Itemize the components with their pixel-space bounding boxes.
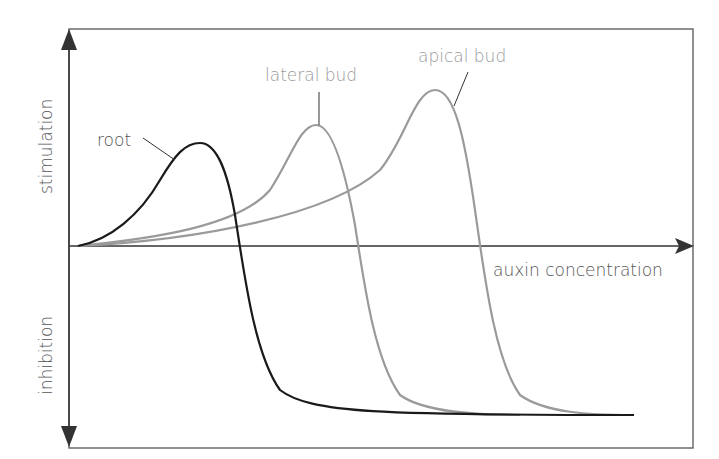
root-label: root bbox=[97, 130, 131, 150]
auxin-diagram: root lateral bud apical bud auxin concen… bbox=[0, 0, 719, 459]
apical-bud-label: apical bud bbox=[418, 46, 506, 66]
root-leader-line bbox=[143, 138, 175, 160]
y-axis-positive-label: stimulation bbox=[36, 99, 56, 194]
apical-bud-leader-line bbox=[454, 72, 468, 106]
arrow-up-icon bbox=[61, 29, 77, 50]
lateral-bud-label: lateral bud bbox=[265, 65, 357, 85]
curve-apical-bud bbox=[78, 90, 634, 415]
x-axis-label: auxin concentration bbox=[493, 260, 663, 280]
y-axis-negative-label: inhibition bbox=[36, 316, 56, 395]
curve-lateral-bud bbox=[78, 125, 520, 415]
arrow-down-icon bbox=[61, 426, 77, 447]
